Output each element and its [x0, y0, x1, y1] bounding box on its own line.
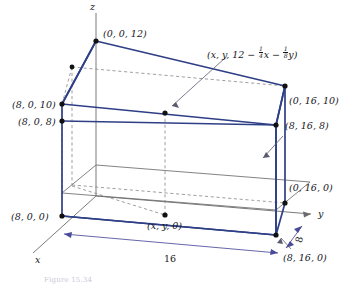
- fraction-one-fourth: 14: [259, 46, 264, 60]
- leader-arrow-plane: [172, 102, 179, 108]
- y-axis-label: y: [318, 208, 323, 219]
- vertex-dots: [59, 38, 287, 237]
- left-slant-edge: [62, 41, 96, 104]
- vertex-label-0-16-0: (0, 16, 0): [289, 182, 333, 193]
- interior-base-left-edge: [62, 165, 96, 193]
- leader-lines: [172, 58, 291, 249]
- dot-8-0-10: [59, 101, 64, 106]
- dimension-lines: [64, 226, 302, 253]
- x-axis: [33, 196, 96, 253]
- dot-surface-point: [162, 110, 167, 115]
- length-dimension-label: 16: [164, 253, 176, 264]
- vertex-label-0-16-10: (0, 16, 10): [289, 95, 339, 106]
- interior-base-long-edge: [62, 193, 276, 210]
- vertex-label-8-16-8: (8, 16, 8): [285, 120, 329, 131]
- dot-0-16-0: [282, 200, 287, 205]
- right-base-edge: [276, 203, 285, 235]
- plane-equation-label: (x, y, 12 − 14x − 18y): [207, 46, 297, 60]
- interior-base-edges: [62, 165, 310, 210]
- plane-equation-minus: −: [269, 49, 283, 60]
- length-arrow-left: [64, 232, 72, 238]
- dot-back-top: [70, 65, 75, 70]
- plane-equation-suffix: ): [294, 49, 298, 60]
- z-axis-label: z: [90, 1, 95, 12]
- vertex-label-0-0-12: (0, 0, 12): [103, 28, 147, 39]
- y-axis-arrow: [303, 212, 311, 218]
- vertex-label-8-16-0: (8, 16, 0): [283, 252, 327, 263]
- dot-base-point: [162, 212, 167, 217]
- dot-8-16-0: [273, 232, 278, 237]
- dimension-arrowheads: [64, 226, 302, 255]
- length-arrow-right: [270, 249, 278, 255]
- y-axis: [96, 196, 311, 214]
- x-axis-label: x: [35, 254, 40, 265]
- dot-8-0-0: [59, 213, 64, 218]
- dashed-back-top-edge: [72, 67, 285, 86]
- dashed-back-base-edge: [72, 185, 285, 203]
- dashed-back-slant: [62, 67, 72, 104]
- dot-8-0-8: [59, 118, 64, 123]
- hidden-edges: [62, 67, 285, 215]
- axis-arrowheads: [303, 212, 311, 218]
- solid-region-figure: [0, 0, 342, 293]
- vertex-label-8-0-0: (8, 0, 0): [11, 211, 49, 222]
- vertex-label-x-y-0: (x, y, 0): [147, 220, 182, 231]
- solid-edges: [62, 41, 285, 235]
- vertex-label-8-0-10: (8, 0, 10): [12, 99, 56, 110]
- right-top-edge: [276, 86, 285, 125]
- dot-0-0-12: [93, 38, 98, 43]
- depth-arrow-high: [294, 226, 302, 233]
- figure-caption: Figure 15.34: [44, 276, 92, 284]
- dot-0-16-10: [282, 83, 287, 88]
- fraction-denominator-4: 4: [259, 53, 264, 59]
- leader-arrow-8-16-8: [263, 152, 270, 158]
- dot-8-16-8: [273, 122, 278, 127]
- vertex-label-8-0-8: (8, 0, 8): [18, 116, 56, 127]
- length-dimension-line: [64, 234, 278, 253]
- plane-equation-prefix: (x, y, 12 −: [207, 49, 258, 60]
- interior-base-back-long-edge: [96, 165, 310, 182]
